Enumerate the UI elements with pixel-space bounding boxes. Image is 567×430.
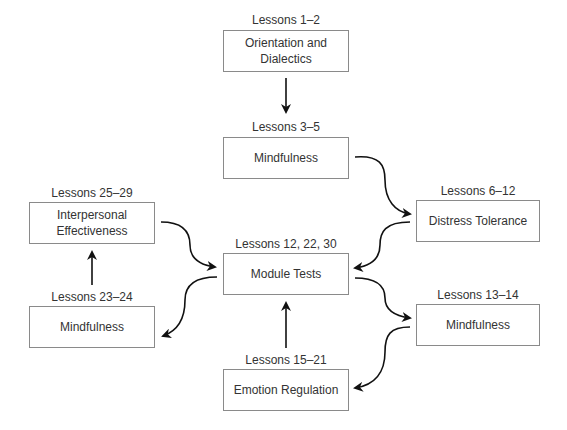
arrow-mindfulness-to-distress bbox=[355, 157, 410, 214]
lessons-label-mindfulness-1: Lessons 3–5 bbox=[223, 120, 349, 134]
arrow-mindfulness-2-to-emotion bbox=[355, 327, 410, 388]
lessons-label-mindfulness-2: Lessons 13–14 bbox=[416, 288, 540, 302]
node-title: Mindfulness bbox=[60, 319, 124, 335]
lessons-label-distress: Lessons 6–12 bbox=[416, 184, 540, 198]
node-orientation-dialectics: Orientation and Dialectics bbox=[223, 30, 349, 72]
lessons-label-mindfulness-3: Lessons 23–24 bbox=[29, 290, 155, 304]
node-module-tests: Module Tests bbox=[223, 253, 349, 295]
node-title: Distress Tolerance bbox=[429, 213, 527, 229]
node-title-line-1: Orientation and bbox=[245, 35, 327, 51]
arrow-module-tests-to-mindfulness-2 bbox=[355, 278, 410, 318]
node-emotion-regulation: Emotion Regulation bbox=[223, 369, 349, 411]
lessons-label-emotion: Lessons 15–21 bbox=[223, 353, 349, 367]
node-title: Mindfulness bbox=[254, 150, 318, 166]
lessons-label-interpersonal: Lessons 25–29 bbox=[29, 186, 155, 200]
node-title-line-1: Interpersonal bbox=[57, 207, 127, 223]
arrow-module-tests-to-mindfulness-3 bbox=[163, 277, 217, 336]
lessons-label-module-tests: Lessons 12, 22, 30 bbox=[223, 237, 349, 251]
arrow-distress-to-module-tests bbox=[355, 222, 410, 268]
node-title: Module Tests bbox=[251, 266, 321, 282]
node-title-line-2: Dialectics bbox=[260, 51, 311, 67]
node-distress-tolerance: Distress Tolerance bbox=[416, 200, 540, 242]
node-mindfulness-3: Mindfulness bbox=[29, 306, 155, 348]
arrow-interpersonal-to-module-tests bbox=[161, 222, 215, 267]
node-interpersonal-effectiveness: Interpersonal Effectiveness bbox=[29, 202, 155, 244]
node-mindfulness-1: Mindfulness bbox=[223, 137, 349, 179]
node-title-line-2: Effectiveness bbox=[56, 223, 127, 239]
node-title: Emotion Regulation bbox=[234, 382, 339, 398]
node-mindfulness-2: Mindfulness bbox=[416, 304, 540, 346]
lessons-label-orientation: Lessons 1–2 bbox=[223, 13, 349, 27]
node-title: Mindfulness bbox=[446, 317, 510, 333]
